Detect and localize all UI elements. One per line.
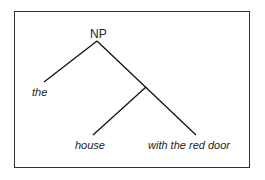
edge-np-n-bar [97, 41, 196, 135]
edge-n-bar-house [93, 87, 146, 135]
leaf-the: the [32, 86, 47, 98]
node-np: NP [90, 27, 107, 41]
edge-np-the [44, 41, 97, 82]
leaf-house: house [75, 139, 105, 151]
leaf-with-the-red-door: with the red door [148, 139, 230, 151]
